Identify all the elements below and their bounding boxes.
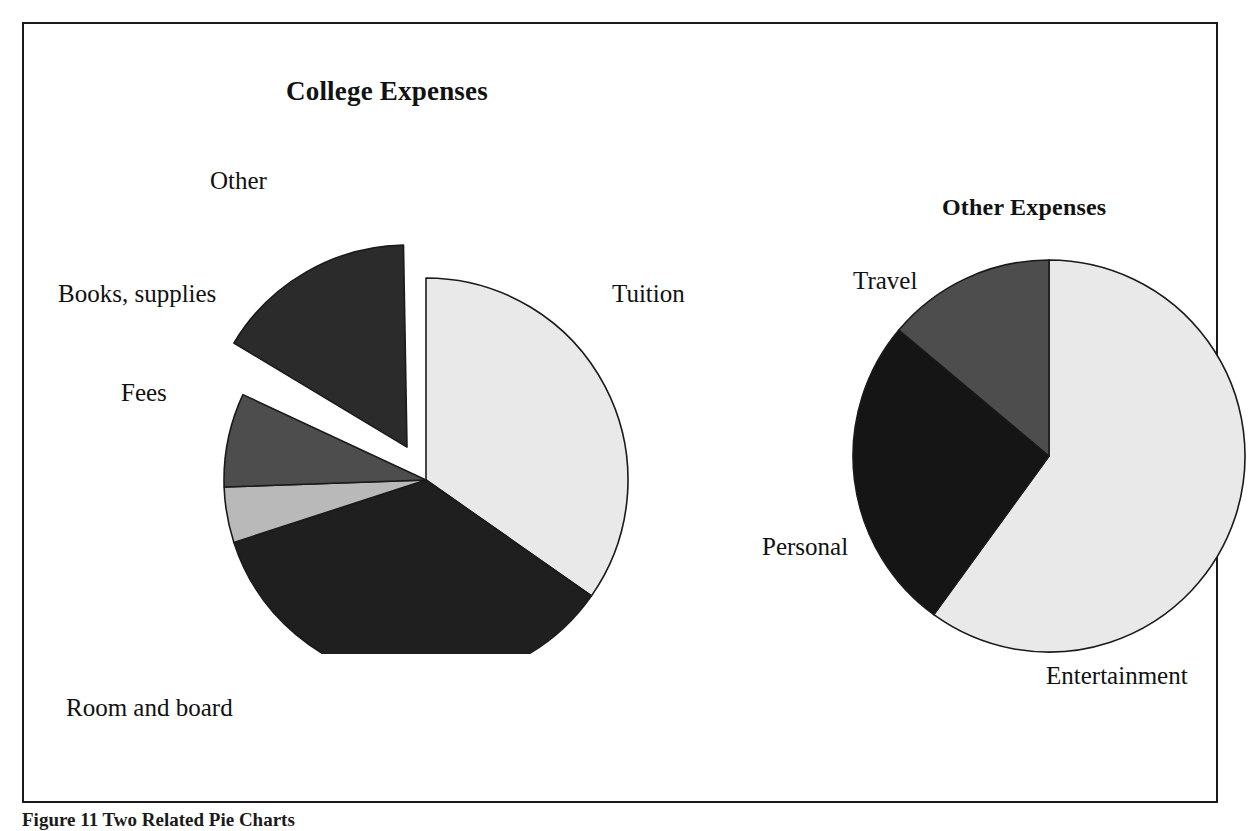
pie-college-expenses [174, 134, 694, 654]
figure-caption: Figure 11 Two Related Pie Charts [22, 809, 295, 831]
pie-label-room-and-board: Room and board [66, 694, 233, 722]
pie-label-travel: Travel [853, 267, 917, 295]
chart-title-other-expenses: Other Expenses [942, 194, 1106, 221]
pie-label-personal: Personal [762, 533, 848, 561]
pie-other-expenses [814, 236, 1250, 706]
figure-frame: College Expenses Tuition Room and board … [22, 22, 1218, 803]
pie-label-other: Other [210, 167, 267, 195]
pie-label-fees: Fees [121, 379, 167, 407]
pie-label-books-supplies: Books, supplies [58, 280, 216, 308]
chart-title-college-expenses: College Expenses [286, 76, 488, 107]
pie-label-tuition: Tuition [612, 280, 685, 308]
pie-label-entertainment: Entertainment [1046, 662, 1188, 690]
